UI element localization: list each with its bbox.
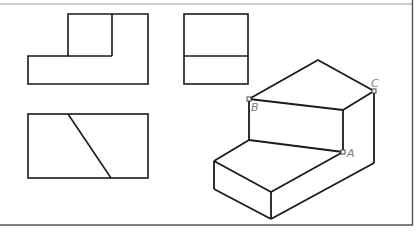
point-b-label: B [251,101,259,114]
side-view [184,14,248,84]
top-view [28,114,148,178]
point-a-marker [341,150,345,154]
point-a-label: A [346,147,355,160]
point-c-label: C [371,77,379,90]
diagram-canvas: B C A [0,0,419,232]
front-view [28,14,148,84]
